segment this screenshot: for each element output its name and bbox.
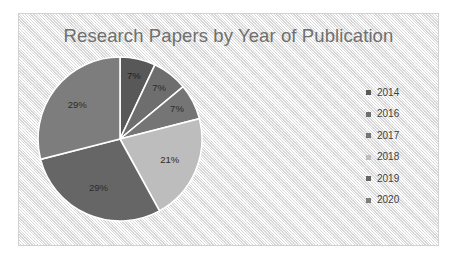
legend-item-2018[interactable]: 2018: [366, 147, 430, 169]
legend-swatch-icon: [366, 90, 371, 95]
legend: 201420162017201820192020: [366, 82, 430, 211]
pie-slice-label: 7%: [127, 70, 141, 81]
legend-item-label: 2014: [377, 88, 399, 98]
chart-title: Research Papers by Year of Publication: [19, 25, 438, 47]
legend-item-2019[interactable]: 2019: [366, 168, 430, 190]
legend-swatch-icon: [366, 176, 371, 181]
legend-swatch-icon: [366, 133, 371, 138]
legend-item-label: 2019: [377, 174, 399, 184]
legend-swatch-icon: [366, 155, 371, 160]
legend-item-label: 2020: [377, 195, 399, 205]
pie-chart: 7%7%7%21%29%29%: [37, 56, 203, 222]
legend-item-label: 2016: [377, 109, 399, 119]
legend-item-2017[interactable]: 2017: [366, 125, 430, 147]
legend-swatch-icon: [366, 112, 371, 117]
pie-slice-label: 29%: [68, 99, 88, 110]
pie-slice-label: 21%: [160, 154, 180, 165]
legend-item-2020[interactable]: 2020: [366, 190, 430, 212]
legend-item-label: 2018: [377, 152, 399, 162]
legend-swatch-icon: [366, 198, 371, 203]
pie-slice-label: 7%: [152, 82, 166, 93]
legend-item-2014[interactable]: 2014: [366, 82, 430, 104]
pie-slice-label: 7%: [170, 103, 184, 114]
legend-item-label: 2017: [377, 131, 399, 141]
pie-slice-group: [38, 57, 202, 221]
pie-slice-label: 29%: [89, 182, 109, 193]
chart-frame: Research Papers by Year of Publication 7…: [18, 13, 439, 246]
legend-item-2016[interactable]: 2016: [366, 104, 430, 126]
pie-svg: 7%7%7%21%29%29%: [37, 56, 203, 222]
